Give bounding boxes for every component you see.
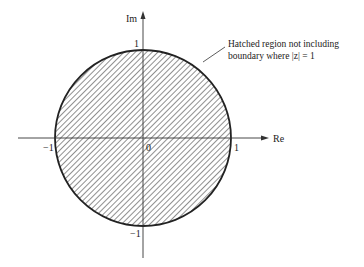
real-axis-label: Re	[273, 133, 285, 144]
tick-imag-pos: 1	[134, 38, 139, 49]
imaginary-axis-label: Im	[126, 13, 137, 24]
complex-plane-diagram: Re Im 1 −1 −1 1 0 Hatched region not inc…	[0, 0, 364, 267]
origin-label: 0	[146, 142, 151, 153]
tick-real-pos: 1	[234, 142, 239, 153]
tick-imag-neg: −1	[130, 228, 141, 239]
tick-real-neg: −1	[43, 142, 54, 153]
annotation-line-1: Hatched region not including	[228, 39, 339, 49]
imaginary-axis-arrow-icon	[141, 11, 146, 19]
real-axis-arrow-icon	[261, 136, 269, 141]
annotation-line-2: boundary where |z| = 1	[228, 51, 315, 61]
annotation-leader-line	[203, 47, 225, 62]
